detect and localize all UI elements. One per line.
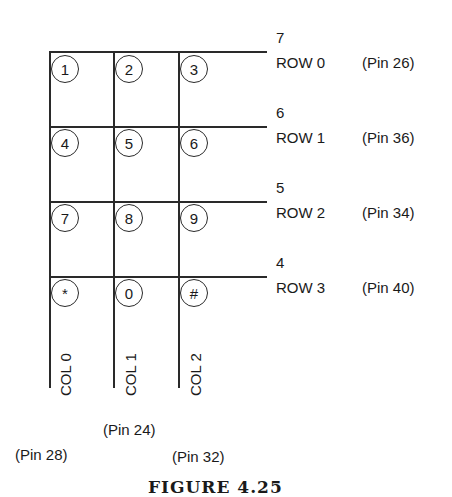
row-1-line xyxy=(49,126,267,128)
key-8: 8 xyxy=(115,204,143,232)
row-0-number: 7 xyxy=(276,29,284,46)
col-1-pin: (Pin 24) xyxy=(103,421,156,438)
key-star: * xyxy=(51,279,79,307)
key-7: 7 xyxy=(51,204,79,232)
row-1-number: 6 xyxy=(276,104,284,121)
key-5: 5 xyxy=(115,129,143,157)
row-3-pin: (Pin 40) xyxy=(362,279,415,296)
row-3-label: ROW 3 xyxy=(276,279,325,296)
row-2-line xyxy=(49,201,267,203)
row-2-pin: (Pin 34) xyxy=(362,204,415,221)
col-2-pin: (Pin 32) xyxy=(172,448,225,465)
key-2: 2 xyxy=(115,55,143,83)
key-6: 6 xyxy=(180,129,208,157)
col-0-pin: (Pin 28) xyxy=(15,446,68,463)
col-0-label: COL 0 xyxy=(57,353,74,396)
row-1-pin: (Pin 36) xyxy=(362,129,415,146)
col-1-label: COL 1 xyxy=(122,353,139,396)
row-3-number: 4 xyxy=(276,254,284,271)
key-9: 9 xyxy=(180,204,208,232)
figure-caption: FIGURE 4.25 xyxy=(148,477,283,497)
row-0-pin: (Pin 26) xyxy=(362,54,415,71)
col-2-label: COL 2 xyxy=(187,353,204,396)
row-3-line xyxy=(49,276,267,278)
key-0: 0 xyxy=(115,279,143,307)
row-2-number: 5 xyxy=(276,179,284,196)
key-1: 1 xyxy=(51,55,79,83)
key-4: 4 xyxy=(51,129,79,157)
row-0-label: ROW 0 xyxy=(276,54,325,71)
row-0-line xyxy=(49,51,267,53)
row-1-label: ROW 1 xyxy=(276,129,325,146)
key-3: 3 xyxy=(180,55,208,83)
row-2-label: ROW 2 xyxy=(276,204,325,221)
key-hash: # xyxy=(180,279,208,307)
